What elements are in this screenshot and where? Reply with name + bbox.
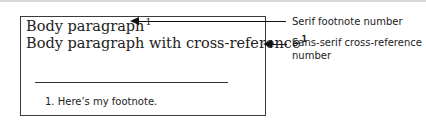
arrow-line [271,44,287,46]
body-paragraph-text: Body paragraph [26,18,144,34]
top-divider [0,0,426,2]
annotation-serif-footnote: Serif footnote number [292,15,403,28]
annotation-sans-serif-crossref: Sans-serif cross-reference number [292,36,422,62]
footnote: 1. Here’s my footnote. [45,96,157,107]
footnote-separator [35,82,228,83]
body-paragraph-text: Body paragraph with cross-reference [26,35,300,51]
arrow-line [138,21,286,23]
